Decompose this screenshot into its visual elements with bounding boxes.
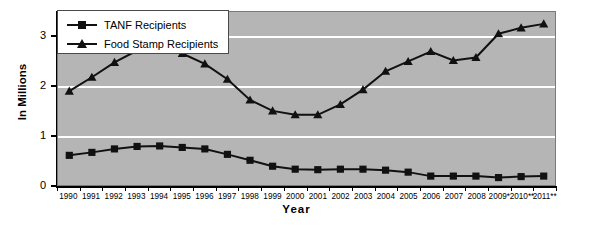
x-axis-tick-mark [102,186,103,191]
x-axis-tick-mark [125,186,126,191]
data-point-square [292,166,299,173]
x-axis-tick-mark [375,186,376,191]
data-point-square [472,173,479,180]
x-axis-tick-label: 2007 [445,192,463,201]
x-axis-tick-label: 1993 [127,192,145,201]
data-point-square [88,149,95,156]
x-axis-tick-mark [170,186,171,191]
x-axis-tick-label: 2006 [422,192,440,201]
x-axis-tick-label: 1997 [218,192,236,201]
legend-item-tanf[interactable]: TANF Recipients [58,15,228,34]
data-point-square [450,173,457,180]
x-axis-title: Year [0,203,593,215]
x-axis-tick-mark [352,186,353,191]
data-point-square [269,163,276,170]
x-axis-tick-label: 1998 [241,192,259,201]
data-point-square [540,173,547,180]
x-axis-tick-label: 1994 [150,192,168,201]
legend-item-label: TANF Recipients [104,19,186,31]
data-point-square [111,145,118,152]
data-point-square [337,166,344,173]
x-axis-tick-label: 2011** [533,192,557,201]
x-axis-tick-mark [193,186,194,191]
x-axis-tick-label: 1999 [263,192,281,201]
legend-item-label: Food Stamp Recipients [104,38,218,50]
data-point-square [427,173,434,180]
data-point-triangle [87,73,96,81]
x-axis-tick-label: 2010** [510,192,535,201]
data-point-square [66,152,73,159]
x-axis-tick-mark [238,186,239,191]
x-axis-tick-mark [420,186,421,191]
legend: TANF Recipients Food Stamp Recipients [57,10,229,54]
x-axis-tick-mark [488,186,489,191]
x-axis-tick-mark [80,186,81,191]
x-axis-tick-mark [465,186,466,191]
line-chart: In Millions 0123 19901991199219931994199… [0,0,593,229]
x-axis-tick-mark [397,186,398,191]
x-axis-tick-mark [216,186,217,191]
y-axis-tick-label: 3 [32,29,46,41]
data-point-square [224,151,231,158]
x-axis-tick-label: 1991 [82,192,100,201]
x-axis-tick-mark [533,186,534,191]
x-axis-tick-label: 2001 [309,192,327,201]
data-point-square [405,169,412,176]
data-point-square [156,142,163,149]
y-axis-tick-label: 2 [32,79,46,91]
x-axis-tick-label: 1990 [59,192,77,201]
x-axis-tick-label: 2005 [399,192,417,201]
data-point-square [518,173,525,180]
x-axis-tick-mark [148,186,149,191]
data-point-square [201,145,208,152]
data-point-triangle [426,47,435,55]
x-axis-tick-label: 2002 [331,192,349,201]
x-axis-tick-label: 2004 [377,192,395,201]
y-axis-tick-label: 0 [32,179,46,191]
x-axis-tick-mark [443,186,444,191]
x-axis-tick-mark [329,186,330,191]
square-marker-icon [67,19,97,31]
x-axis-tick-mark [511,186,512,191]
x-axis-tick-label: 2009* [489,192,510,201]
x-axis-tick-mark [284,186,285,191]
x-axis-tick-label: 2003 [354,192,372,201]
legend-item-food-stamp[interactable]: Food Stamp Recipients [58,34,228,53]
data-point-square [495,174,502,181]
x-axis-tick-label: 1992 [105,192,123,201]
y-axis-tick-label: 1 [32,129,46,141]
data-point-triangle [539,19,548,27]
x-axis-tick-label: 1995 [173,192,191,201]
x-axis-tick-mark [556,186,557,191]
data-point-square [382,167,389,174]
x-axis-tick-mark [307,186,308,191]
data-point-square [314,166,321,173]
data-point-triangle [65,87,74,95]
data-point-square [246,157,253,164]
data-point-square [179,144,186,151]
x-axis-tick-label: 2008 [468,192,486,201]
y-axis-title: In Millions [16,44,28,140]
data-point-triangle [110,58,119,66]
x-axis-tick-mark [57,186,58,191]
data-point-square [133,143,140,150]
x-axis-tick-label: 1996 [195,192,213,201]
triangle-marker-icon [67,38,97,50]
data-point-triangle [336,100,345,108]
data-point-square [359,166,366,173]
x-axis-tick-label: 2000 [286,192,304,201]
x-axis-tick-mark [261,186,262,191]
